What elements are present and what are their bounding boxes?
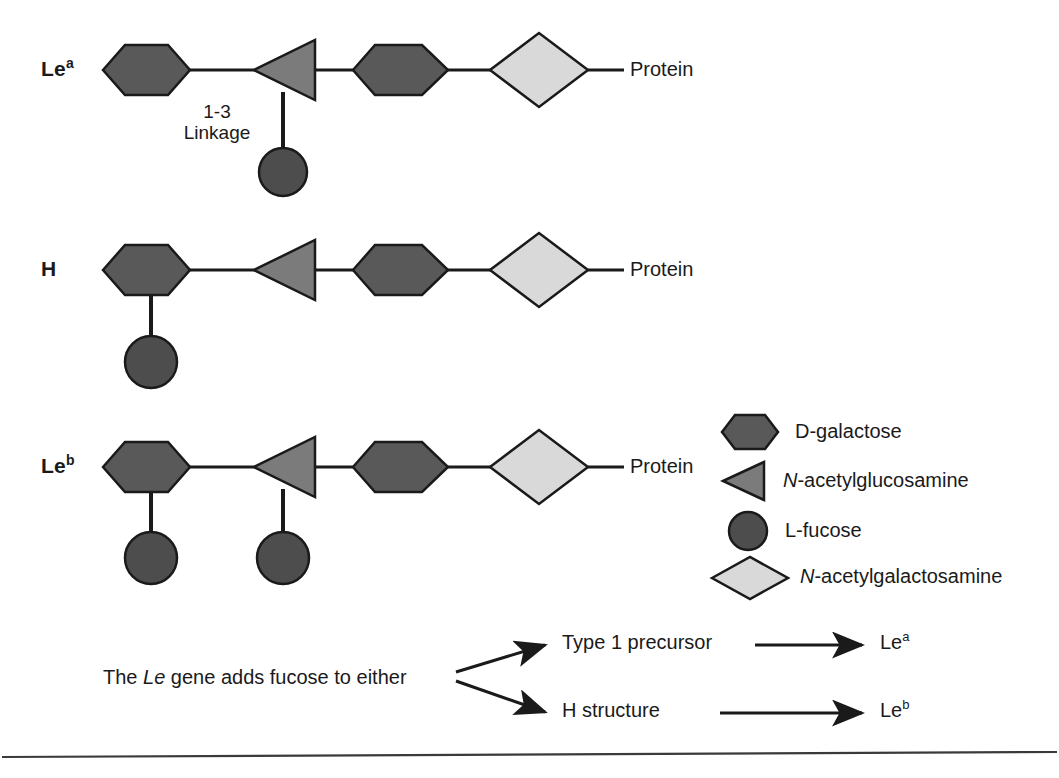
legend-label-n-acetylgalactosamine: N-acetylgalactosamine [800, 565, 1002, 588]
shape-n-acetylglucosamine [254, 437, 315, 497]
shape-l-fucose-2 [257, 532, 309, 584]
shape-n-acetylgalactosamine [490, 430, 588, 504]
linkage-annotation: 1-3 Linkage [176, 101, 258, 144]
bottom-divider [2, 752, 1057, 757]
flow-branch-label-h-structure: H structure [562, 699, 660, 722]
row-h-antigen [103, 233, 624, 388]
legend-triangle-icon [723, 462, 764, 500]
row-label-lewis-a-base: Le [41, 57, 66, 80]
legend-text-n-acetylglucosamine: -acetylglucosamine [797, 469, 968, 491]
row-lewis-b [103, 430, 624, 584]
shape-d-galactose [103, 45, 190, 95]
flow-source-prefix: The [103, 666, 143, 688]
shape-d-galactose [103, 245, 190, 295]
shape-l-fucose [125, 336, 177, 388]
flow-source-text: The Le gene adds fucose to either [103, 666, 407, 689]
flow-result-lewis-a: Lea [880, 631, 909, 654]
shape-n-acetylglucosamine [254, 240, 315, 300]
legend-italic-n-2: N [800, 565, 814, 587]
legend-label-l-fucose: L-fucose [785, 519, 862, 542]
legend-shapes [712, 415, 788, 599]
shape-n-acetylgalactosamine [490, 33, 588, 107]
flow-result-lewis-b: Leb [880, 699, 909, 722]
flow-result-lewis-a-sup: a [902, 629, 909, 644]
legend-label-n-acetylglucosamine: N-acetylglucosamine [783, 469, 969, 492]
shape-l-fucose [125, 532, 177, 584]
glycan-structures-diagram [0, 0, 1059, 778]
shape-d-galactose-2 [353, 442, 448, 492]
row-label-h: H [41, 257, 56, 281]
flow-source-suffix: gene adds fucose to either [165, 666, 406, 688]
flow-result-lewis-a-base: Le [880, 631, 902, 653]
flow-branch-label-type1-precursor: Type 1 precursor [562, 631, 712, 654]
row-label-lewis-b-base: Le [41, 454, 66, 477]
legend-hexagon-icon [722, 415, 778, 449]
legend-italic-n-1: N [783, 469, 797, 491]
legend-circle-icon [729, 512, 767, 550]
shape-l-fucose [259, 148, 307, 196]
shape-d-galactose-2 [353, 45, 448, 95]
legend-label-d-galactose: D-galactose [795, 420, 902, 443]
legend-diamond-icon [712, 557, 788, 599]
shape-d-galactose-2 [353, 245, 448, 295]
arrow-branch-up [456, 645, 545, 672]
flow-source-italic-le: Le [143, 666, 165, 688]
shape-n-acetylglucosamine [254, 40, 315, 100]
protein-label-lewis-a: Protein [630, 58, 693, 81]
shape-d-galactose [103, 442, 190, 492]
legend-text-n-acetylgalactosamine: -acetylgalactosamine [814, 565, 1002, 587]
flow-result-lewis-b-base: Le [880, 699, 902, 721]
row-label-lewis-b-sup: b [66, 452, 75, 468]
row-label-lewis-b: Leb [41, 454, 75, 478]
arrow-branch-down [456, 681, 545, 712]
row-label-lewis-a-sup: a [66, 55, 74, 71]
row-label-h-base: H [41, 257, 56, 280]
linkage-line-2: Linkage [176, 122, 258, 143]
protein-label-h: Protein [630, 258, 693, 281]
linkage-line-1: 1-3 [176, 101, 258, 122]
shape-n-acetylgalactosamine [490, 233, 588, 307]
figure-canvas: Lea H Leb 1-3 Linkage Protein Protein Pr… [0, 0, 1059, 778]
row-label-lewis-a: Lea [41, 57, 74, 81]
flow-result-lewis-b-sup: b [902, 697, 909, 712]
protein-label-lewis-b: Protein [630, 455, 693, 478]
